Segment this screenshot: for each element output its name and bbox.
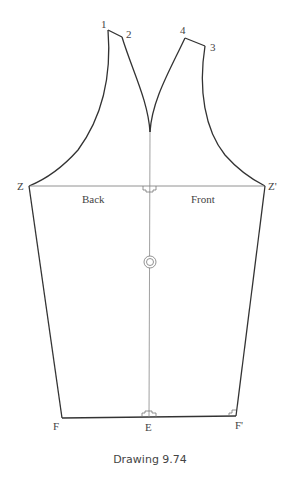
front-neckline <box>150 38 185 132</box>
back-side-seam <box>29 186 62 418</box>
figure-caption: Drawing 9.74 <box>113 453 187 466</box>
label-f-prime: F' <box>235 419 243 431</box>
back-shoulder-line <box>108 30 122 37</box>
label-point-1: 1 <box>101 18 107 30</box>
label-point-4: 4 <box>180 24 186 36</box>
label-z: Z <box>17 180 24 192</box>
front-armhole <box>202 46 265 186</box>
label-point-3: 3 <box>210 41 216 53</box>
grain-marker-outer <box>144 256 156 268</box>
front-shoulder-line <box>185 38 205 46</box>
label-z-prime: Z' <box>268 180 277 192</box>
label-back: Back <box>82 193 105 205</box>
center-line <box>149 132 150 417</box>
label-point-2: 2 <box>126 28 132 40</box>
pattern-diagram: 1 2 4 3 Z Z' Back Front F E F' Drawing 9… <box>0 0 290 489</box>
label-front: Front <box>191 193 215 205</box>
front-side-seam <box>236 186 265 416</box>
back-armhole <box>29 30 109 186</box>
right-angle-marker-f-prime <box>229 410 236 416</box>
label-f: F <box>53 420 59 432</box>
label-e: E <box>145 421 152 433</box>
back-neckline <box>122 37 150 132</box>
